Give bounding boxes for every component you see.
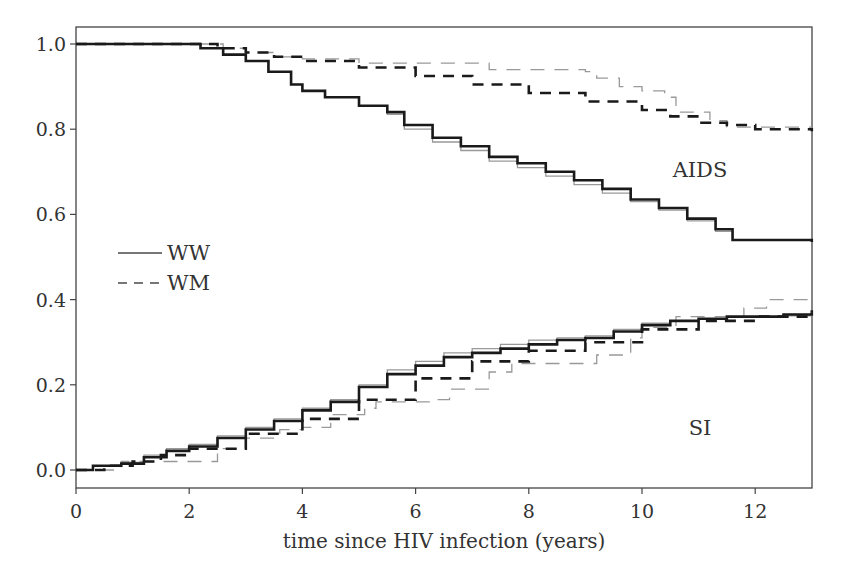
annotation-aids: AIDS [672, 158, 728, 182]
x-tick-label: 10 [630, 500, 654, 522]
y-tick-label: 0.6 [36, 203, 66, 225]
legend-label-ww: WW [167, 241, 211, 265]
chart: 0.00.20.40.60.81.0 024681012 time since … [0, 0, 843, 575]
x-tick-label: 0 [70, 500, 82, 522]
y-tick-label: 0.4 [36, 289, 66, 311]
x-axis-title: time since HIV infection (years) [283, 529, 606, 553]
legend-label-wm: WM [167, 271, 210, 295]
y-tick-label: 0.8 [36, 118, 66, 140]
annotation-si: SI [689, 416, 712, 440]
x-tick-label: 2 [183, 500, 195, 522]
x-tick-label: 12 [743, 500, 767, 522]
x-axis: 024681012 [70, 488, 767, 522]
y-tick-label: 0.0 [36, 459, 66, 481]
x-tick-label: 4 [296, 500, 308, 522]
y-axis: 0.00.20.40.60.81.0 [36, 33, 76, 481]
x-tick-label: 8 [523, 500, 535, 522]
x-tick-label: 6 [410, 500, 422, 522]
y-tick-label: 0.2 [36, 374, 66, 396]
y-tick-label: 1.0 [36, 33, 66, 55]
